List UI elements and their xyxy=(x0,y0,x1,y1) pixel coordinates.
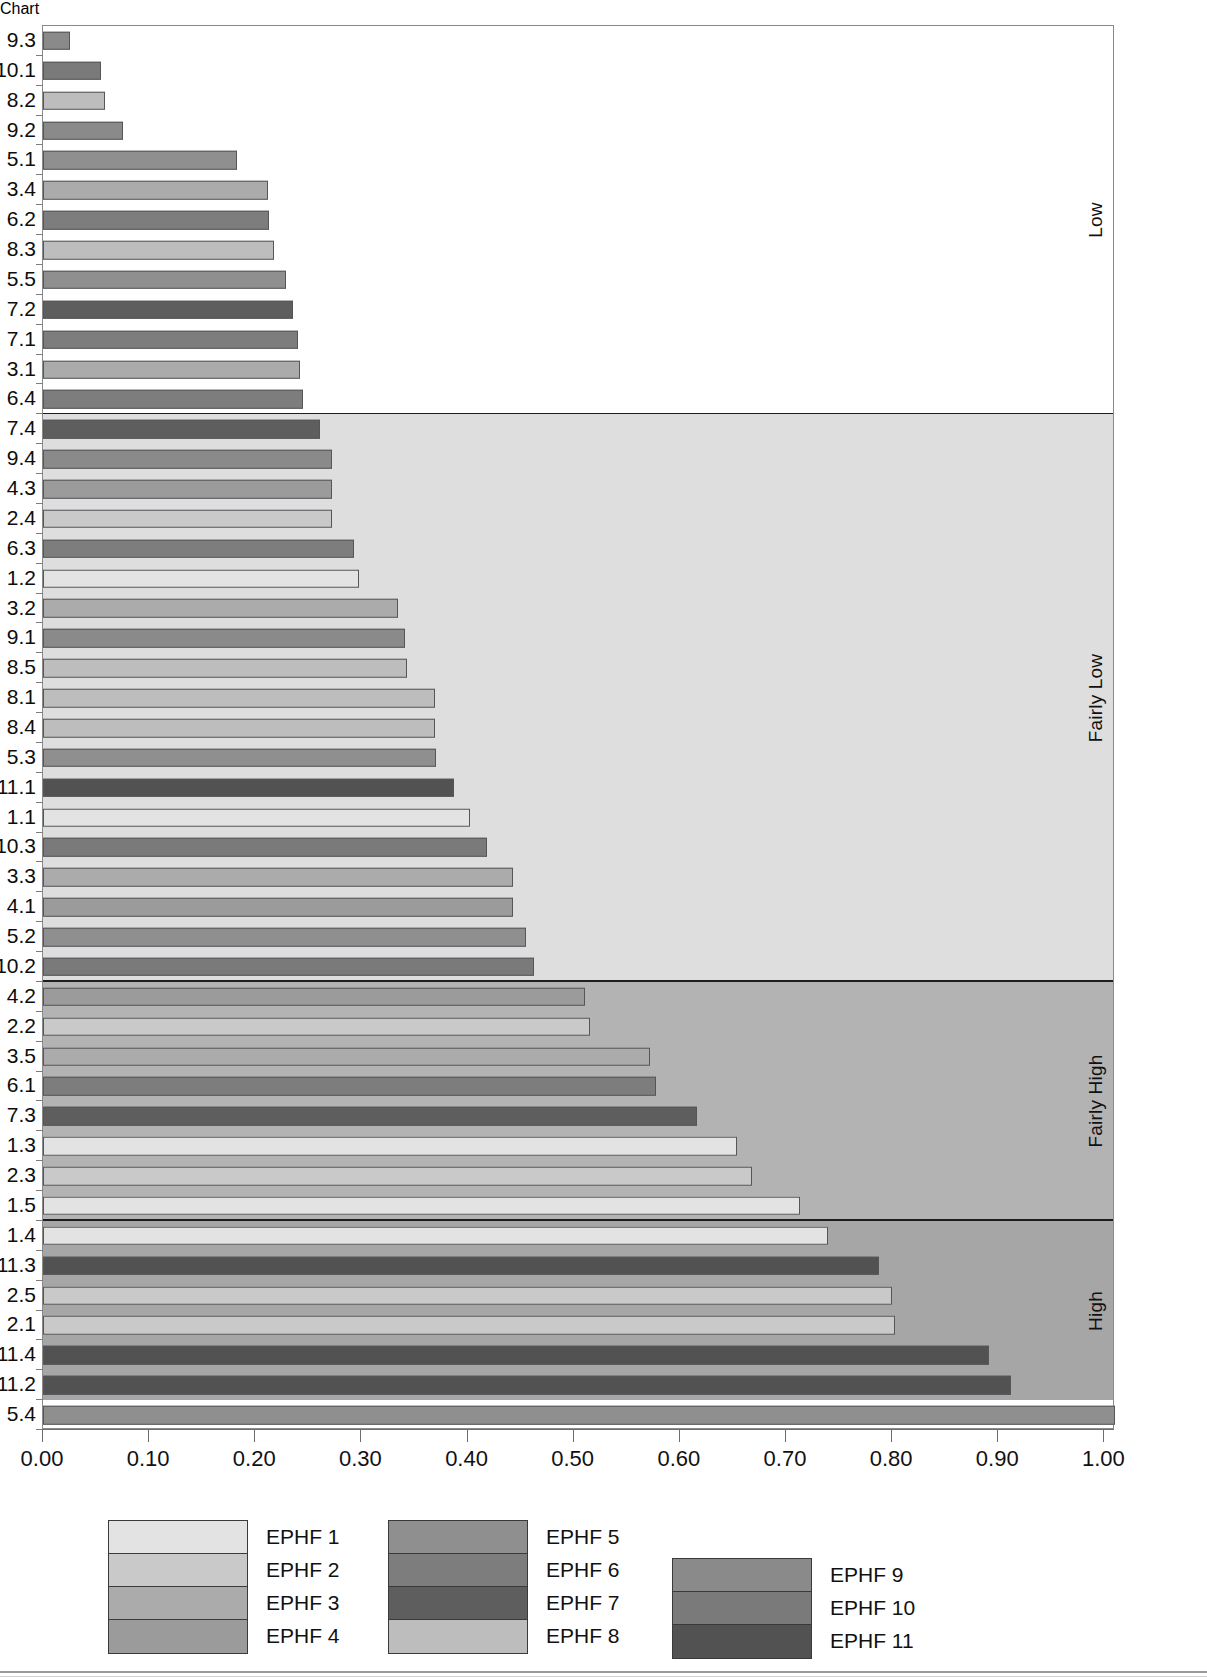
y-axis-tick xyxy=(36,144,43,145)
bar-8-2 xyxy=(43,91,105,110)
bar-10-1 xyxy=(43,62,101,81)
legend-swatch-ephf-8 xyxy=(389,1620,527,1653)
y-axis-label: 1.5 xyxy=(7,1193,36,1217)
y-axis-tick xyxy=(36,473,43,474)
bar-row xyxy=(43,384,1113,414)
bar-3-4 xyxy=(43,181,268,200)
y-axis-tick xyxy=(36,772,43,773)
bar-row xyxy=(43,1161,1113,1191)
bar-6-4 xyxy=(43,390,303,409)
legend-swatch-ephf-9 xyxy=(673,1559,811,1592)
y-axis-tick xyxy=(36,1011,43,1012)
y-axis-label: 4.1 xyxy=(7,894,36,918)
bar-row xyxy=(43,1311,1113,1341)
y-axis-label: 4.3 xyxy=(7,476,36,500)
x-axis-tick-label: 0.90 xyxy=(976,1446,1019,1472)
legend-label-ephf-10: EPHF 10 xyxy=(830,1591,915,1624)
bar-row xyxy=(43,26,1113,56)
y-axis-tick xyxy=(36,383,43,384)
bar-row xyxy=(43,265,1113,295)
footer-rule xyxy=(0,1671,1207,1673)
y-axis-label: 3.5 xyxy=(7,1044,36,1068)
y-axis-tick xyxy=(36,503,43,504)
legend-label-ephf-6: EPHF 6 xyxy=(546,1553,620,1586)
bar-7-1 xyxy=(43,330,298,349)
y-axis-tick xyxy=(36,563,43,564)
legend-label-ephf-4: EPHF 4 xyxy=(266,1619,340,1652)
y-axis-label: 7.2 xyxy=(7,297,36,321)
bar-10-3 xyxy=(43,838,487,857)
y-axis-tick xyxy=(36,593,43,594)
bar-2-5 xyxy=(43,1286,892,1305)
bar-7-4 xyxy=(43,420,320,439)
bar-6-1 xyxy=(43,1077,656,1096)
x-axis-tick-label: 0.60 xyxy=(657,1446,700,1472)
y-axis-tick xyxy=(36,1280,43,1281)
y-axis-label: 5.1 xyxy=(7,147,36,171)
bar-row xyxy=(43,922,1113,952)
y-axis-label: 4.2 xyxy=(7,984,36,1008)
bar-11-4 xyxy=(43,1346,989,1365)
bar-row xyxy=(43,205,1113,235)
y-axis-tick xyxy=(36,85,43,86)
bar-11-2 xyxy=(43,1376,1011,1395)
x-axis-line xyxy=(42,1429,1114,1430)
bar-row xyxy=(43,653,1113,683)
bar-row xyxy=(43,86,1113,116)
legend-label-stack: EPHF 9EPHF 10EPHF 11 xyxy=(830,1558,915,1657)
y-axis-tick xyxy=(36,443,43,444)
bar-row xyxy=(43,564,1113,594)
y-axis-tick xyxy=(36,1369,43,1370)
bar-row xyxy=(43,1072,1113,1102)
bar-4-2 xyxy=(43,988,585,1007)
bar-5-5 xyxy=(43,271,286,290)
y-axis-tick xyxy=(36,234,43,235)
x-axis-tick xyxy=(467,1430,468,1442)
bar-row xyxy=(43,623,1113,653)
y-axis-label: 1.4 xyxy=(7,1223,36,1247)
bar-4-1 xyxy=(43,898,513,917)
legend-swatch-ephf-11 xyxy=(673,1625,811,1658)
bar-8-1 xyxy=(43,689,435,708)
legend-swatch-ephf-3 xyxy=(109,1587,247,1620)
y-axis-tick xyxy=(36,204,43,205)
bar-row xyxy=(43,325,1113,355)
plot-area: LowFairly LowFairly HighHigh xyxy=(42,25,1114,1429)
bar-row xyxy=(43,1370,1113,1400)
bar-row xyxy=(43,504,1113,534)
x-axis-tick-label: 0.50 xyxy=(551,1446,594,1472)
legend-swatch-ephf-6 xyxy=(389,1554,527,1587)
legend-label-ephf-8: EPHF 8 xyxy=(546,1619,620,1652)
y-axis-label: 8.1 xyxy=(7,685,36,709)
y-axis-tick xyxy=(36,891,43,892)
bar-6-3 xyxy=(43,539,354,558)
y-axis-label: 8.2 xyxy=(7,88,36,112)
y-axis-label: 7.3 xyxy=(7,1103,36,1127)
legend-label-ephf-1: EPHF 1 xyxy=(266,1520,340,1553)
y-axis-tick xyxy=(36,294,43,295)
y-axis-tick xyxy=(36,1399,43,1400)
bar-row xyxy=(43,833,1113,863)
y-axis-tick xyxy=(36,1100,43,1101)
bar-9-2 xyxy=(43,121,123,140)
y-axis-label: 7.1 xyxy=(7,327,36,351)
y-axis-label: 11.4 xyxy=(0,1342,36,1366)
y-axis-label: 5.5 xyxy=(7,267,36,291)
x-axis-tick xyxy=(891,1430,892,1442)
y-axis-label: 9.3 xyxy=(7,28,36,52)
bar-2-2 xyxy=(43,1017,590,1036)
legend-label-ephf-11: EPHF 11 xyxy=(830,1624,915,1657)
y-axis-label: 10.3 xyxy=(0,834,36,858)
y-axis-tick xyxy=(36,115,43,116)
y-axis-tick xyxy=(36,742,43,743)
bar-1-4 xyxy=(43,1227,828,1246)
y-axis-label: 1.3 xyxy=(7,1133,36,1157)
y-axis-tick xyxy=(36,921,43,922)
y-axis-label: 7.4 xyxy=(7,416,36,440)
bar-row xyxy=(43,683,1113,713)
y-axis-label: 5.4 xyxy=(7,1402,36,1426)
bar-8-4 xyxy=(43,719,435,738)
bar-2-1 xyxy=(43,1316,895,1335)
y-axis-tick xyxy=(36,832,43,833)
y-axis-tick xyxy=(36,802,43,803)
